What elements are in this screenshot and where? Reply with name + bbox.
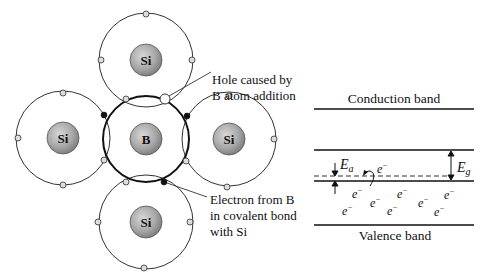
ea-label: Ea xyxy=(339,157,354,174)
atom-label: Si xyxy=(224,132,235,147)
electron-annotation-line3: with Si xyxy=(210,224,248,239)
ea-arrows xyxy=(332,163,338,194)
nucleus-si-bottom: Si xyxy=(130,206,162,238)
arrow-head-icon xyxy=(363,170,368,176)
hole-annotation-line2: B atom addition xyxy=(212,88,296,103)
electrons: e− e− e− e− e− e− e− e− e− xyxy=(342,161,455,219)
electron-label: e− xyxy=(418,195,429,210)
electron-leader-line xyxy=(167,183,207,197)
eg-label: Eg xyxy=(456,160,471,177)
eg-arrow xyxy=(448,151,454,180)
atom-label: Si xyxy=(141,53,152,68)
nucleus-b-center: B xyxy=(130,123,162,155)
nucleus-si-left: Si xyxy=(47,122,79,154)
electron-label: e− xyxy=(387,203,398,218)
atom-label: B xyxy=(142,132,151,147)
hole-icon xyxy=(160,94,170,104)
nucleus-si-top: Si xyxy=(130,44,162,76)
electron-annotation-line1: Electron from B xyxy=(210,192,295,207)
nucleus-si-right: Si xyxy=(213,123,245,155)
electron-icon xyxy=(271,136,277,142)
arrow-up-icon xyxy=(448,151,454,156)
electron-label: e− xyxy=(352,186,363,201)
hole-annotation-line1: Hole caused by xyxy=(212,72,293,87)
electron-icon xyxy=(187,219,193,225)
conduction-band-label: Conduction band xyxy=(348,91,441,106)
valence-band-label: Valence band xyxy=(359,228,432,243)
atom-label: Si xyxy=(141,215,152,230)
electron-icon xyxy=(143,11,149,17)
band-diagram: Conduction band Valence band Ea Eg xyxy=(314,91,474,243)
electron-icon xyxy=(60,90,66,96)
electron-icon xyxy=(15,135,21,141)
arrow-down-icon xyxy=(448,175,454,180)
electron-icon xyxy=(123,96,129,102)
electron-icon xyxy=(141,265,147,271)
arrow-down-icon xyxy=(332,171,338,176)
electron-icon xyxy=(123,179,129,185)
electron-icon xyxy=(224,184,230,190)
electron-label: e− xyxy=(370,195,381,210)
electron-icon xyxy=(101,157,107,163)
electron-label: e− xyxy=(342,203,353,218)
crystal-lattice: Si Si B Si Si xyxy=(15,11,297,271)
boron-electron-icon xyxy=(184,113,190,119)
electron-label: e− xyxy=(397,186,408,201)
atom-label: Si xyxy=(58,131,69,146)
electron-label: e− xyxy=(434,204,445,219)
electron-icon xyxy=(183,158,189,164)
electron-label: e− xyxy=(444,187,455,202)
boron-doping-figure: Si Si B Si Si xyxy=(0,0,486,280)
electron-icon xyxy=(98,57,104,63)
electron-label: e− xyxy=(377,161,388,176)
electron-icon xyxy=(189,57,195,63)
electron-annotation-line2: in covalent bond xyxy=(210,208,297,223)
electron-icon xyxy=(60,182,66,188)
boron-electron-icon xyxy=(161,179,167,185)
electron-icon xyxy=(95,219,101,225)
boron-electron-icon xyxy=(101,112,107,118)
